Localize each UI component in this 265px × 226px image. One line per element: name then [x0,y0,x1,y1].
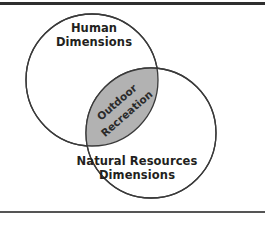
venn-diagram-graphic [0,0,265,226]
venn-diagram-figure: Human Dimensions Natural Resources Dimen… [0,0,265,226]
bottom-divider-rule [0,211,265,213]
